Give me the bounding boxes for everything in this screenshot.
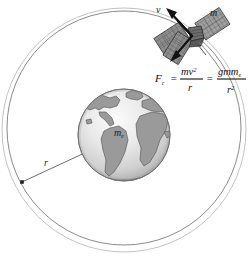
radius-endpoint-marker bbox=[20, 180, 24, 184]
satellite-mass-label: m bbox=[210, 7, 217, 18]
radius-label: r bbox=[44, 157, 48, 168]
equation-term1-numerator: mv bbox=[181, 66, 194, 77]
equation-equals-2: = bbox=[206, 72, 213, 84]
svg-text:gmme: gmme bbox=[218, 66, 241, 78]
equation-term2-numerator: gmm bbox=[218, 66, 239, 77]
equation-lhs-subscript: c bbox=[162, 80, 165, 86]
equation-equals-1: = bbox=[170, 72, 177, 84]
equation-term2-numerator-subscript: e bbox=[238, 72, 241, 78]
earth-mass-base: m bbox=[114, 127, 121, 138]
velocity-label: v bbox=[156, 4, 161, 15]
orbit-diagram-figure: me r bbox=[0, 0, 252, 259]
earth-mass-subscript: e bbox=[121, 133, 124, 139]
